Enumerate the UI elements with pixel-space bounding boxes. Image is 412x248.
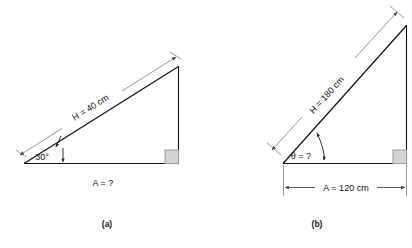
label-a-hypotenuse-group: H = 40 cm xyxy=(70,92,110,122)
panel-a: H = 40 cm 30° A = ? xyxy=(16,52,181,188)
caption-panel-b: (b) xyxy=(297,219,337,229)
dimension-arrow-a-right xyxy=(122,57,176,91)
triangle-b-outline xyxy=(283,25,407,164)
label-a-hypotenuse: H = 40 cm xyxy=(70,92,110,122)
diagram-canvas: H = 40 cm 30° A = ? xyxy=(0,0,412,248)
dimension-arrow-b-left xyxy=(272,117,302,150)
dimension-line-b-adjacent: A = 120 cm xyxy=(284,165,407,196)
label-b-hypotenuse-group: H = 180 cm xyxy=(308,74,346,115)
right-angle-marker-a xyxy=(165,150,179,164)
dimension-arrow-b-right xyxy=(355,12,397,58)
extension-tick-b-left xyxy=(267,143,281,155)
triangle-b-hypotenuse xyxy=(283,26,407,164)
triangle-a-hypotenuse xyxy=(24,67,179,164)
label-b-adjacent: A = 120 cm xyxy=(323,183,368,193)
angle-arc-b xyxy=(317,133,324,160)
extension-tick-a-left xyxy=(16,150,26,157)
angle-arrow-a-upper xyxy=(56,136,61,147)
caption-panel-a: (a) xyxy=(87,219,127,229)
label-b-hypotenuse: H = 180 cm xyxy=(308,74,346,115)
panel-b: H = 180 cm θ = ? A = 120 cm xyxy=(267,6,407,196)
triangle-a-outline xyxy=(24,66,179,164)
extension-tick-a-right xyxy=(170,52,181,59)
label-a-adjacent: A = ? xyxy=(93,178,114,188)
right-angle-marker-b xyxy=(393,150,407,164)
angle-indicator-b xyxy=(317,133,324,160)
geometry-figure: H = 40 cm 30° A = ? xyxy=(0,0,412,248)
label-b-angle: θ = ? xyxy=(291,151,311,161)
label-a-angle: 30° xyxy=(35,152,49,162)
